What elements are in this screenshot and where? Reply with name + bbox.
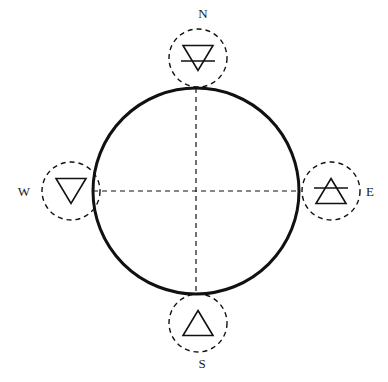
- direction-label-south: S: [198, 356, 205, 371]
- direction-label-north: N: [198, 6, 208, 21]
- diagram-canvas: NESW: [0, 0, 388, 382]
- compass-diagram: NESW: [0, 0, 388, 382]
- direction-label-east: E: [366, 184, 374, 199]
- direction-label-west: W: [18, 184, 31, 199]
